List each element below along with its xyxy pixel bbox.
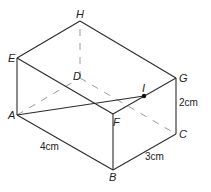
vertex-label-f: F: [113, 116, 121, 128]
vertex-label-i: I: [142, 82, 145, 94]
vertex-label-b: B: [109, 171, 116, 183]
vertex-label-c: C: [179, 128, 187, 140]
dimension-ab: 4cm: [40, 141, 59, 152]
dimension-bc: 3cm: [145, 151, 164, 162]
vertex-label-e: E: [8, 52, 16, 64]
point-i-marker: [142, 94, 146, 98]
vertex-label-h: H: [76, 8, 84, 20]
edge-he: [17, 21, 80, 58]
vertex-label-g: G: [179, 72, 188, 84]
edge-ab: [17, 115, 113, 170]
edge-gh: [80, 21, 176, 78]
vertex-label-a: A: [7, 109, 15, 121]
cuboid-diagram: H E D G I A F C B 2cm 4cm 3cm: [0, 0, 211, 192]
hidden-edge-ad: [17, 78, 80, 115]
segment-ai: [17, 96, 144, 115]
dimension-cg: 2cm: [179, 97, 198, 108]
edge-ef: [17, 58, 113, 114]
vertex-label-d: D: [73, 70, 81, 82]
